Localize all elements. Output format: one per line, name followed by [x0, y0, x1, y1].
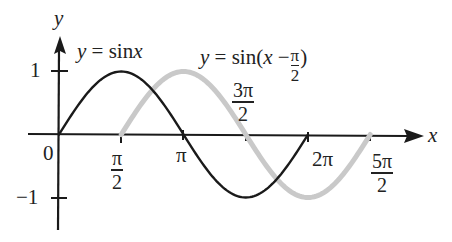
y-tick-label-1: 1 [30, 60, 41, 81]
annotation-sin-x: y = sinx [77, 41, 143, 62]
origin-label: 0 [43, 143, 54, 164]
annotation-sin-shift: y = sin(x −π2) [200, 41, 307, 78]
x-tick-label-2pi: 2π [312, 149, 333, 170]
x-tick-label-3pi-half: 3π2 [232, 80, 254, 124]
x-axis [28, 134, 408, 136]
plot-area [0, 0, 452, 242]
x-tick-label-pi-half: π2 [111, 148, 123, 192]
pi-over-2-fraction: π2 [291, 47, 300, 84]
x-axis-arrow-icon [404, 129, 424, 143]
y-axis [58, 50, 59, 230]
x-tick-label-5pi-half: 5π2 [371, 151, 393, 195]
y-axis-label: y [54, 8, 63, 29]
y-tick-label-minus-1: −1 [16, 187, 38, 208]
x-axis-label: x [428, 125, 437, 146]
x-tick-label-pi: π [176, 145, 187, 166]
